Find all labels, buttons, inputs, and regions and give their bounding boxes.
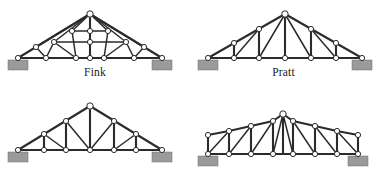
truss-panel-howe: Howe <box>0 92 190 184</box>
vertical-web-members <box>234 14 336 58</box>
truss-label-pratt: Pratt <box>190 66 377 78</box>
left-top-chord <box>18 106 90 150</box>
truss-panel-warren: Warren <box>190 92 377 184</box>
support-right-roller <box>152 152 172 162</box>
left-web-members <box>36 14 90 58</box>
support-right-roller <box>348 156 368 166</box>
warren-diagram <box>190 92 377 184</box>
truss-figure: Fink <box>0 0 377 184</box>
right-web-members <box>90 14 144 58</box>
support-left-pinned <box>8 152 28 162</box>
left-top-chord <box>208 14 285 58</box>
fink-diagram <box>0 0 190 92</box>
truss-panel-fink: Fink <box>0 0 190 92</box>
howe-diagram <box>0 92 190 184</box>
truss-panel-pratt: Pratt <box>190 0 377 92</box>
pratt-diagram <box>190 0 377 92</box>
right-top-chord <box>90 106 162 150</box>
vertical-web-members <box>208 114 358 154</box>
support-left-pinned <box>198 156 218 166</box>
truss-label-fink: Fink <box>0 66 190 78</box>
right-top-chord <box>285 14 362 58</box>
